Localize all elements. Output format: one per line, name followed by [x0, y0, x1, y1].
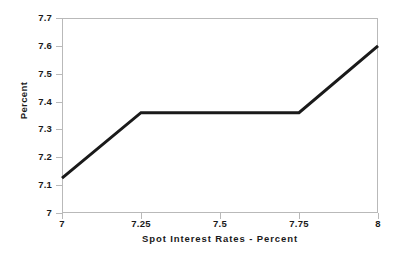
- y-axis-tick-mark: [56, 102, 62, 103]
- x-axis-tick-label: 7.25: [131, 218, 150, 229]
- y-axis-tick-label: 7.2: [38, 152, 52, 162]
- y-axis-tick-label: 7.7: [38, 13, 52, 23]
- y-axis-tick-mark: [56, 74, 62, 75]
- y-axis-tick-label: 7.6: [38, 41, 52, 51]
- y-axis-title: Percent: [18, 71, 29, 131]
- x-axis-title: Spot Interest Rates - Percent: [62, 233, 378, 244]
- y-axis-tick-label: 7.5: [38, 69, 52, 79]
- y-axis-tick-mark: [56, 129, 62, 130]
- x-axis-tick-label: 7.75: [289, 218, 308, 229]
- x-axis-tick-mark: [62, 213, 63, 219]
- y-axis-tick-mark: [56, 46, 62, 47]
- x-axis-tick-label: 7.5: [213, 218, 227, 229]
- x-axis-tick-mark: [141, 213, 142, 219]
- x-axis-tick-mark: [299, 213, 300, 219]
- data-series-line: [62, 46, 378, 178]
- y-axis-tick-label: 7.4: [38, 97, 52, 107]
- y-axis-tick-mark: [56, 18, 62, 19]
- y-axis-tick-label: 7.1: [38, 180, 52, 190]
- x-axis-tick-label: 7: [59, 218, 64, 229]
- x-axis-tick-mark: [378, 213, 379, 219]
- y-axis-tick-label: 7: [47, 208, 52, 218]
- x-axis-tick-mark: [220, 213, 221, 219]
- plot-area: [62, 18, 378, 213]
- x-axis-tick-label: 8: [375, 218, 380, 229]
- chart-container: 77.17.27.37.47.57.67.7 Spot Interest Rat…: [0, 0, 400, 256]
- y-axis-tick-mark: [56, 185, 62, 186]
- y-axis-tick-label: 7.3: [38, 124, 52, 134]
- y-axis-tick-mark: [56, 157, 62, 158]
